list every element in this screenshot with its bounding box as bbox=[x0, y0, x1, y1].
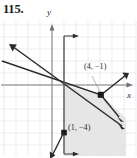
leader-line-point-a bbox=[92, 76, 100, 92]
point-marker-4-neg1 bbox=[98, 92, 104, 98]
exercise-number: 115. bbox=[3, 2, 23, 17]
shaded-region bbox=[64, 85, 126, 156]
descending-line-arrow-start bbox=[9, 44, 17, 51]
point-label-a: (4, −1) bbox=[84, 62, 106, 71]
x-axis-arrowhead bbox=[127, 83, 134, 88]
coordinate-plot bbox=[0, 19, 137, 158]
descending-line-lower-arrowhead bbox=[50, 152, 56, 158]
x-axis-label: x bbox=[127, 90, 131, 100]
point-label-b: (1, −4) bbox=[68, 123, 90, 132]
y-axis-label: y bbox=[47, 7, 51, 17]
v-graph-arrow-right bbox=[122, 73, 129, 80]
figure-container: 115. bbox=[0, 0, 137, 158]
